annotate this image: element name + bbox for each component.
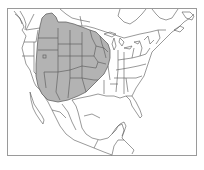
map-svg [0,0,204,170]
range-map: Range map of North America [0,0,204,170]
